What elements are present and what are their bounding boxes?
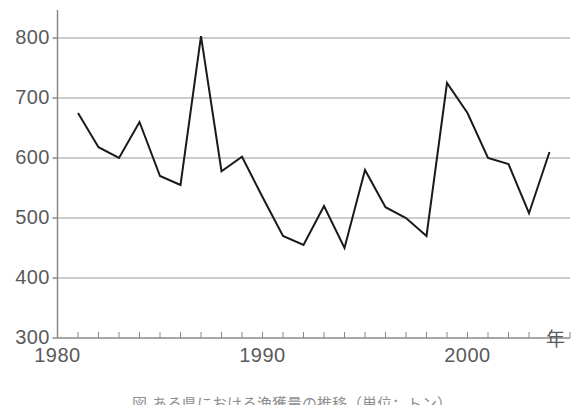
axis-lines: [58, 10, 571, 338]
y-axis-tick-label: 600: [2, 147, 50, 167]
x-axis-unit-label: 年: [546, 330, 565, 350]
x-axis-tick-label: 2000: [438, 345, 498, 365]
y-axis-tick-label: 400: [2, 267, 50, 287]
y-axis-tick-label: 800: [2, 27, 50, 47]
chart-figure: 300400500600700800 198019902000 年 図 ある県に…: [0, 0, 584, 405]
y-axis-tick-label: 700: [2, 87, 50, 107]
x-axis-tick-label: 1990: [233, 345, 293, 365]
gridlines: [58, 38, 571, 278]
data-series-line: [78, 36, 550, 248]
x-axis-tick-label: 1980: [28, 345, 88, 365]
figure-caption: 図 ある県における漁獲量の推移（単位：トン）: [0, 392, 584, 405]
x-axis-ticks: [58, 332, 571, 338]
y-axis-tick-label: 500: [2, 207, 50, 227]
